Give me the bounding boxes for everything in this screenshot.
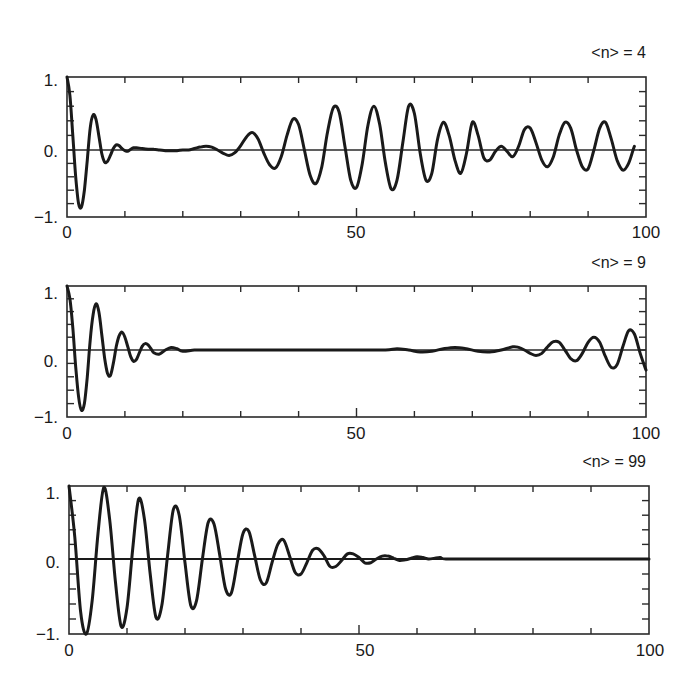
panel-title: <n> = 99 bbox=[582, 453, 646, 470]
x-tick-label-100: 100 bbox=[636, 641, 664, 660]
x-tick-label-50: 50 bbox=[347, 424, 366, 443]
x-tick-label-50: 50 bbox=[347, 223, 366, 242]
panel-title: <n> = 4 bbox=[591, 44, 646, 61]
x-tick-label-0: 0 bbox=[64, 641, 73, 660]
panel-1: <n> = 4 1. 0. −1. 0 50 100 bbox=[34, 44, 660, 242]
panel-3: <n> = 99 1. 0. −1. 0 50 100 bbox=[36, 453, 664, 660]
plot-frame bbox=[67, 77, 646, 217]
y-tick-label-0: 0. bbox=[44, 142, 58, 161]
data-curve bbox=[69, 486, 649, 634]
y-tick-label-0: 0. bbox=[46, 553, 60, 572]
panel-2: <n> = 9 1. 0. −1. 0 50 100 bbox=[34, 254, 660, 443]
y-tick-label-1: 1. bbox=[44, 71, 58, 90]
x-tick-label-50: 50 bbox=[356, 641, 375, 660]
x-tick-label-100: 100 bbox=[632, 424, 660, 443]
x-tick-label-0: 0 bbox=[62, 223, 71, 242]
y-tick-label-neg1: −1. bbox=[34, 208, 58, 227]
y-tick-label-neg1: −1. bbox=[34, 408, 58, 427]
tick-marks bbox=[67, 77, 646, 217]
data-curve bbox=[67, 286, 646, 411]
x-tick-label-100: 100 bbox=[632, 223, 660, 242]
y-tick-label-neg1: −1. bbox=[36, 625, 60, 644]
x-tick-label-0: 0 bbox=[62, 424, 71, 443]
data-curve bbox=[67, 77, 634, 208]
y-tick-label-1: 1. bbox=[44, 284, 58, 303]
figure: <n> = 4 1. 0. −1. 0 50 100 <n> = 9 1. 0.… bbox=[0, 0, 698, 689]
y-tick-label-0: 0. bbox=[44, 352, 58, 371]
y-tick-label-1: 1. bbox=[46, 484, 60, 503]
panel-title: <n> = 9 bbox=[591, 254, 646, 271]
